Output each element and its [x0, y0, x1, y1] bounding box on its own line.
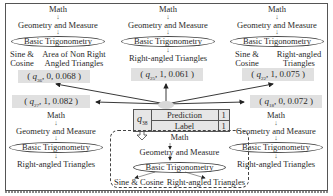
- tree-top-left: Math ↓ Geometry and Measure ↓ Basic Trig…: [8, 5, 108, 68]
- tree-top-middle: Math ↓ Geometry and Measure ↓ Basic Trig…: [118, 5, 218, 63]
- node-basic-trig: Basic Trigonometry: [133, 162, 227, 173]
- tuple-bottom-left: ( q27, 1, 0.082 ): [12, 95, 90, 108]
- down-arrow-icon: ↓: [228, 29, 326, 36]
- node-child: Sine & Cosine: [114, 178, 164, 187]
- tree-center: Math Geometry and Measure Basic Trigonom…: [112, 133, 247, 187]
- tree-bottom-left: Math ↓ Geometry and Measure ↓ Basic Trig…: [6, 111, 106, 169]
- down-arrow-icon: ↓: [6, 135, 106, 142]
- node-geometry: Geometry and Measure: [112, 148, 247, 157]
- node-child: Right-angled Triangles: [167, 178, 245, 187]
- node-child: Sine & Cosine: [232, 50, 262, 68]
- tree-top-right: Math ↓ Geometry and Measure ↓ Basic Trig…: [228, 5, 326, 68]
- node-basic-trig: Basic Trigonometry: [230, 36, 324, 47]
- node-basic-trig: Basic Trigonometry: [11, 36, 105, 47]
- prediction-value: 1: [218, 110, 229, 121]
- down-arrow-icon: ↓: [118, 29, 218, 36]
- node-child: Right-angled Triangles: [118, 54, 218, 63]
- down-arrow-icon: ↓: [8, 29, 108, 36]
- tuple-top-left: ( q36, 0, 0.068 ): [18, 70, 90, 83]
- prediction-label: Prediction: [151, 110, 218, 121]
- node-math: Math: [112, 133, 247, 142]
- node-child: Right-angled Triangles: [276, 50, 322, 68]
- node-child: Right-angled Triangles: [6, 160, 106, 169]
- target-question: q38: [134, 110, 152, 132]
- tuple-top-right: ( q22, 1, 0.075 ): [242, 68, 314, 81]
- node-child: Area of Non Right Angled Triangles: [40, 50, 108, 68]
- prediction-table: q38 Prediction 1 Label 1: [133, 109, 230, 132]
- node-child: Sine & Cosine: [8, 50, 36, 68]
- tuple-bottom-right: ( q18, 0, 0.072 ): [250, 95, 322, 108]
- tuple-top-middle: ( q25, 1, 0.061 ): [131, 68, 203, 81]
